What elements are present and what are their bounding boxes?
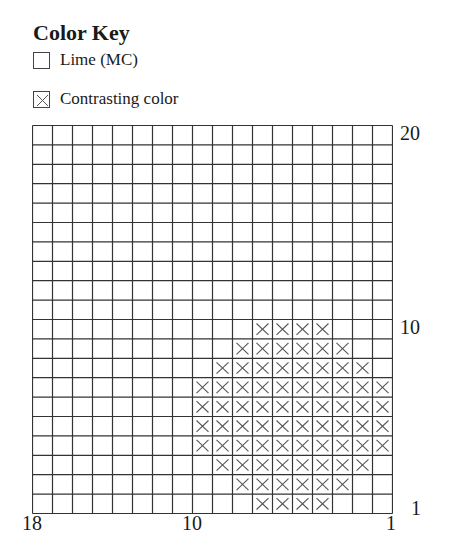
contrast-stitch-x-icon [317,382,329,393]
contrast-stitch-x-icon [377,382,389,393]
contrast-stitch-x-icon [297,421,309,432]
contrast-stitch-x-icon [357,362,369,373]
x-square-icon [33,91,50,108]
contrast-stitch-x-icon [197,421,209,432]
contrast-stitch-x-icon [277,459,289,470]
contrast-stitch-x-icon [217,421,229,432]
contrast-stitch-x-icon [377,401,389,412]
column-label-10: 10 [182,513,202,533]
column-label-18: 18 [22,513,42,533]
contrast-stitch-x-icon [337,343,349,354]
contrast-stitch-x-icon [257,459,269,470]
contrast-stitch-x-icon [337,421,349,432]
contrast-stitch-x-icon [257,498,269,509]
blank-square-icon [33,52,50,69]
contrast-stitch-x-icon [317,459,329,470]
contrast-stitch-x-icon [357,440,369,451]
contrast-stitch-x-icon [317,479,329,490]
contrast-stitch-x-icon [277,343,289,354]
contrast-stitch-x-icon [257,421,269,432]
row-label-20: 20 [400,123,420,143]
contrast-stitch-x-icon [277,498,289,509]
contrast-stitch-x-icon [217,440,229,451]
contrast-stitch-x-icon [337,362,349,373]
contrast-stitch-x-icon [337,479,349,490]
contrast-stitch-x-icon [337,440,349,451]
contrast-stitch-x-icon [237,343,249,354]
contrast-stitch-x-icon [257,382,269,393]
contrast-stitch-x-icon [237,362,249,373]
contrast-stitch-x-icon [237,440,249,451]
contrast-stitch-x-icon [277,382,289,393]
contrast-stitch-x-icon [337,459,349,470]
contrast-stitch-x-icon [377,440,389,451]
contrast-stitch-x-icon [217,459,229,470]
row-label-10: 10 [400,317,420,337]
contrast-stitch-x-icon [277,401,289,412]
contrast-stitch-x-icon [317,343,329,354]
contrast-stitch-x-icon [277,440,289,451]
contrast-stitch-x-icon [377,421,389,432]
contrast-stitch-x-icon [317,324,329,335]
contrast-stitch-x-icon [357,459,369,470]
legend-label-main-color: Lime (MC) [60,50,138,70]
contrast-stitch-x-icon [257,440,269,451]
contrast-stitch-x-icon [197,440,209,451]
contrast-stitch-x-icon [197,401,209,412]
contrast-stitch-x-icon [197,382,209,393]
contrast-stitch-x-icon [277,479,289,490]
contrast-stitch-x-icon [257,401,269,412]
contrast-stitch-x-icon [297,382,309,393]
row-label-1: 1 [411,498,421,518]
contrast-stitch-x-icon [277,324,289,335]
contrast-stitch-x-icon [317,362,329,373]
contrast-stitch-x-icon [357,382,369,393]
contrast-stitch-x-icon [237,382,249,393]
contrast-stitch-x-icon [317,421,329,432]
contrast-stitch-x-icon [297,440,309,451]
contrast-stitch-x-icon [297,324,309,335]
knitting-chart-grid [32,125,393,514]
contrast-stitch-x-icon [217,362,229,373]
contrast-stitch-x-icon [277,362,289,373]
color-key-title: Color Key [33,20,130,46]
contrast-stitch-x-icon [297,343,309,354]
legend-item-main-color: Lime (MC) [33,50,138,70]
contrast-stitch-x-icon [317,401,329,412]
legend-item-contrasting-color: Contrasting color [33,89,179,109]
legend-label-contrasting-color: Contrasting color [60,89,179,109]
contrast-stitch-x-icon [277,421,289,432]
contrast-stitch-x-icon [257,362,269,373]
contrast-stitch-x-icon [237,421,249,432]
column-label-1: 1 [386,513,396,533]
contrast-stitch-x-icon [237,401,249,412]
contrast-stitch-x-icon [257,324,269,335]
contrast-stitch-x-icon [317,498,329,509]
contrast-stitch-x-icon [317,440,329,451]
contrast-stitch-x-icon [297,498,309,509]
contrast-stitch-x-icon [237,479,249,490]
contrast-stitch-x-icon [217,401,229,412]
contrast-stitch-x-icon [357,401,369,412]
contrast-stitch-x-icon [257,479,269,490]
contrast-stitch-x-icon [337,401,349,412]
contrast-stitch-x-icon [357,421,369,432]
contrast-stitch-x-icon [297,459,309,470]
contrast-stitch-x-icon [297,479,309,490]
contrast-stitch-x-icon [337,382,349,393]
contrast-stitch-x-icon [297,362,309,373]
contrast-stitch-x-icon [237,459,249,470]
contrast-stitch-x-icon [297,401,309,412]
chart-grid-svg [32,125,393,514]
contrast-stitch-x-icon [257,343,269,354]
contrast-stitch-x-icon [217,382,229,393]
